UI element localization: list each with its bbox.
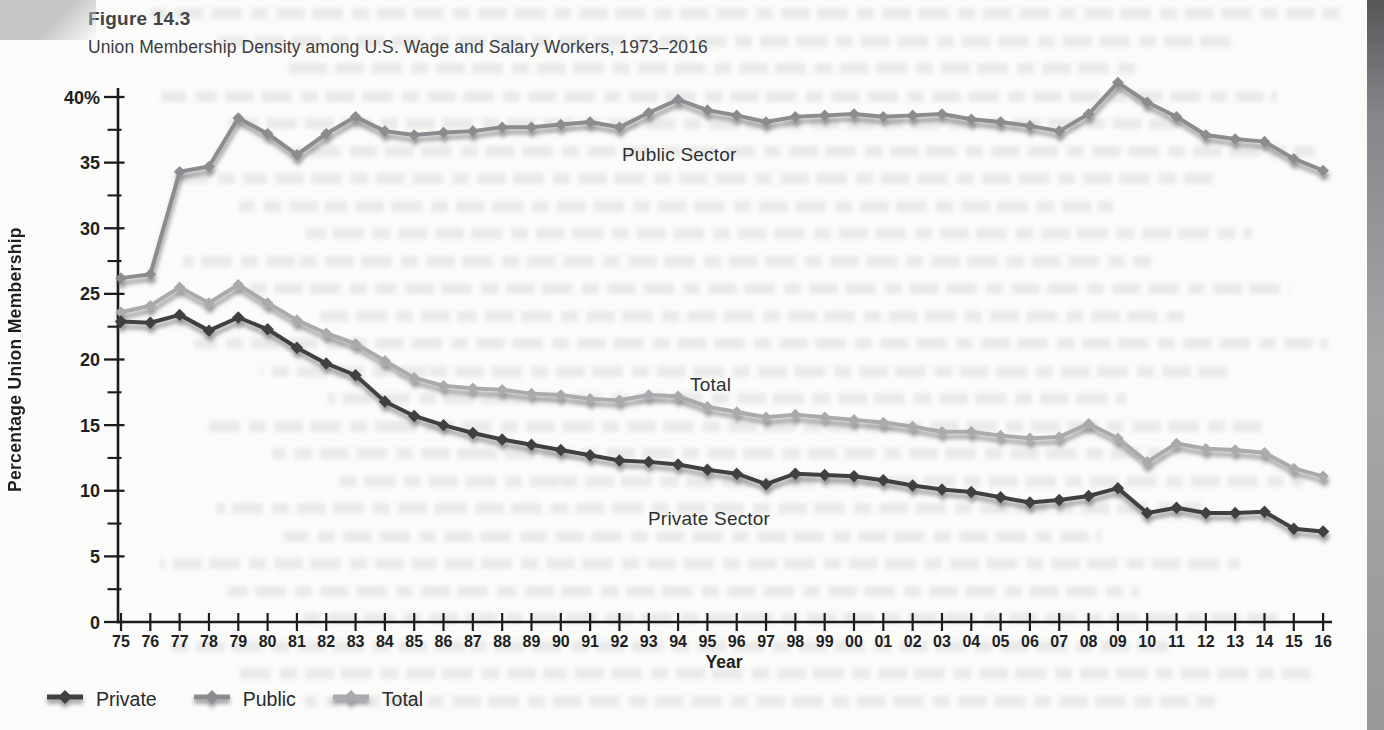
x-tick-label: 02 <box>904 633 922 650</box>
x-tick-label: 12 <box>1197 633 1215 650</box>
x-tick-label: 00 <box>845 633 863 650</box>
data-point-marker <box>1317 471 1329 483</box>
x-tick-label: 04 <box>962 633 980 650</box>
data-point-marker <box>555 389 567 401</box>
x-tick-label: 14 <box>1256 633 1274 650</box>
data-point-marker <box>614 394 626 406</box>
data-point-marker <box>818 469 830 481</box>
x-axis-title: Year <box>121 652 1327 673</box>
data-point-marker <box>789 467 801 479</box>
x-tick-label: 07 <box>1050 633 1068 650</box>
book-page: Figure 14.3 Union Membership Density amo… <box>0 0 1384 730</box>
x-tick-label: 11 <box>1168 633 1185 650</box>
x-tick-label: 16 <box>1314 633 1332 650</box>
data-point-marker <box>1229 507 1241 519</box>
page-corner-shading <box>0 0 96 40</box>
data-point-marker <box>1024 120 1036 132</box>
data-point-marker <box>320 327 332 339</box>
data-point-marker <box>584 449 596 461</box>
data-point-marker <box>702 104 714 116</box>
y-tick-label: 40% <box>64 88 100 108</box>
x-tick-label: 10 <box>1138 633 1156 650</box>
data-point-marker <box>526 388 538 400</box>
data-point-marker <box>790 409 802 421</box>
data-point-marker <box>672 458 684 470</box>
data-point-marker <box>731 406 743 418</box>
legend-label-public: Public <box>243 688 296 711</box>
data-point-marker <box>525 439 537 451</box>
y-tick-label: 35 <box>80 153 100 173</box>
x-tick-label: 92 <box>611 633 629 650</box>
y-tick-label: 15 <box>80 416 100 436</box>
data-point-marker <box>555 119 567 131</box>
data-point-marker <box>232 311 244 323</box>
data-point-marker <box>760 411 772 423</box>
x-tick-label: 82 <box>317 633 335 650</box>
x-tick-label: 88 <box>493 633 511 650</box>
figure-label: Figure 14.3 <box>88 8 191 30</box>
series-label-private-sector: Private Sector <box>648 508 770 530</box>
data-point-marker <box>790 111 802 123</box>
data-point-marker <box>1200 443 1212 455</box>
legend-key-private <box>44 686 86 712</box>
data-point-marker <box>496 384 508 396</box>
data-point-marker <box>174 166 186 178</box>
x-tick-label: 95 <box>699 633 717 650</box>
x-tick-label: 94 <box>669 633 687 650</box>
page-edge-strip <box>1367 0 1384 730</box>
data-point-marker <box>995 430 1007 442</box>
data-point-marker <box>907 421 919 433</box>
x-tick-label: 03 <box>933 633 951 650</box>
data-point-marker <box>702 401 714 413</box>
x-tick-label: 76 <box>141 633 159 650</box>
legend-label-total: Total <box>382 688 423 711</box>
legend-item-private: Private <box>44 686 157 712</box>
x-tick-label: 85 <box>405 633 423 650</box>
series-label-public-sector: Public Sector <box>622 144 737 166</box>
series-label-total: Total <box>690 374 731 396</box>
x-tick-label: 91 <box>581 633 599 650</box>
data-point-marker <box>1229 444 1241 456</box>
legend-label-private: Private <box>96 688 157 711</box>
x-tick-label: 01 <box>874 633 892 650</box>
data-point-marker <box>760 116 772 128</box>
data-point-marker <box>584 116 596 128</box>
data-point-marker <box>672 390 684 402</box>
data-point-marker <box>584 393 596 405</box>
data-point-marker <box>878 111 890 123</box>
y-tick-label: 0 <box>90 613 100 633</box>
data-point-marker <box>643 456 655 468</box>
y-tick-label: 10 <box>80 481 100 501</box>
data-point-marker <box>1053 494 1065 506</box>
data-point-marker <box>877 474 889 486</box>
data-point-marker <box>878 417 890 429</box>
data-point-marker <box>848 470 860 482</box>
x-tick-label: 80 <box>259 633 277 650</box>
data-point-marker <box>1200 507 1212 519</box>
y-tick-label: 25 <box>80 284 100 304</box>
data-point-marker <box>1317 165 1329 177</box>
data-point-marker <box>731 467 743 479</box>
data-point-marker <box>906 479 918 491</box>
x-tick-label: 90 <box>552 633 570 650</box>
data-point-marker <box>819 110 831 122</box>
data-point-marker <box>819 411 831 423</box>
x-tick-label: 96 <box>728 633 746 650</box>
data-point-marker <box>995 116 1007 128</box>
x-tick-label: 78 <box>200 633 218 650</box>
data-point-marker <box>1024 496 1036 508</box>
data-point-marker <box>731 110 743 122</box>
x-tick-label: 13 <box>1226 633 1244 650</box>
data-point-marker <box>496 433 508 445</box>
legend-item-total: Total <box>330 686 423 712</box>
series-private <box>115 309 1330 538</box>
y-axis-title: Percentage Union Membership <box>5 97 26 622</box>
data-point-marker <box>145 268 157 280</box>
x-tick-label: 89 <box>523 633 541 650</box>
x-tick-label: 05 <box>992 633 1010 650</box>
data-point-marker <box>526 121 538 133</box>
data-point-marker <box>965 426 977 438</box>
data-point-marker <box>936 108 948 120</box>
data-point-marker <box>994 491 1006 503</box>
data-point-marker <box>408 129 420 141</box>
